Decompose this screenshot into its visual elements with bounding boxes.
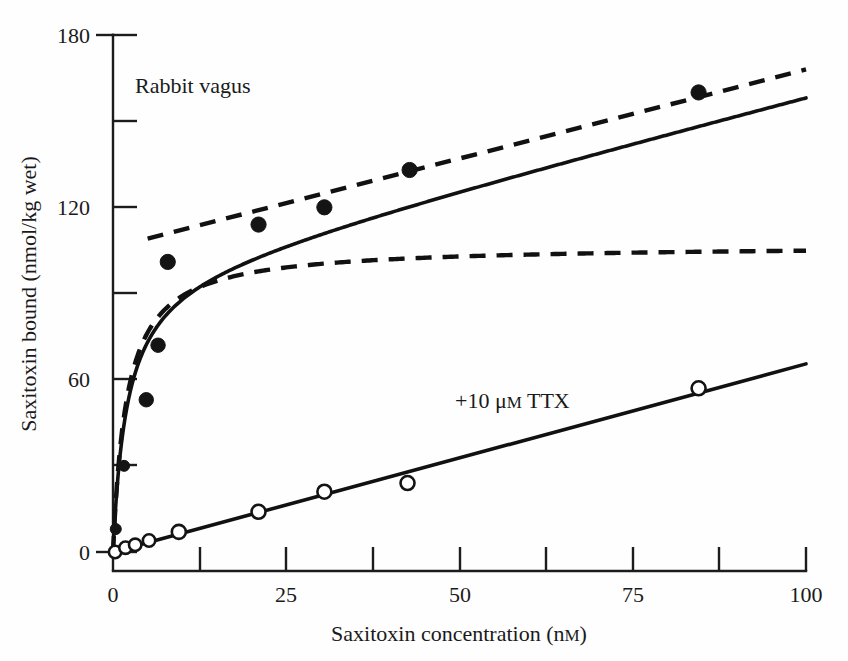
data-point-filled bbox=[691, 85, 706, 100]
data-point-open bbox=[129, 539, 141, 551]
svg-text:Saxitoxin concentration (nM): Saxitoxin concentration (nM) bbox=[331, 621, 587, 646]
preparation-label: Rabbit vagus bbox=[135, 73, 251, 98]
data-point-open bbox=[401, 476, 415, 490]
series-total-binding-points bbox=[110, 85, 706, 535]
saxitoxin-binding-chart: 180 120 60 0 0 25 50 75 100 Saxitoxin bo… bbox=[0, 0, 848, 661]
y-tick-label-60: 60 bbox=[68, 367, 90, 392]
x-axis-title-tail: ) bbox=[580, 621, 587, 646]
data-point-filled bbox=[110, 524, 121, 535]
data-point-open bbox=[317, 485, 331, 499]
x-axis-title-main: Saxitoxin concentration (n bbox=[331, 621, 564, 646]
svg-text:+10 μM TTX: +10 μM TTX bbox=[455, 388, 570, 413]
data-point-filled bbox=[139, 393, 153, 407]
ttx-label-tail: TTX bbox=[522, 388, 570, 413]
data-point-filled bbox=[160, 254, 175, 269]
data-point-filled bbox=[151, 338, 165, 352]
x-tick-labels-group: 0 25 50 75 100 bbox=[108, 582, 823, 607]
x-axis-title: Saxitoxin concentration (nM) bbox=[331, 621, 587, 646]
data-point-open bbox=[692, 381, 706, 395]
data-point-filled bbox=[119, 460, 130, 471]
chart-figure: 180 120 60 0 0 25 50 75 100 Saxitoxin bo… bbox=[0, 0, 848, 661]
fitted-curves-group bbox=[113, 69, 806, 552]
data-point-filled bbox=[251, 217, 266, 232]
ttx-annotation: +10 μM TTX bbox=[455, 388, 570, 413]
axes-group bbox=[113, 35, 806, 571]
ttx-label-main: +10 bbox=[455, 388, 495, 413]
y-tick-label-120: 120 bbox=[57, 195, 90, 220]
y-tick-label-0: 0 bbox=[79, 540, 90, 565]
data-point-filled bbox=[317, 200, 332, 215]
data-point-filled bbox=[402, 162, 417, 177]
total-binding-curve bbox=[113, 98, 806, 552]
series-ttx-nonspecific-points bbox=[109, 381, 706, 558]
y-tick-labels-group: 180 120 60 0 bbox=[57, 23, 90, 565]
y-axis-title: Saxitoxin bound (nmol/kg wet) bbox=[16, 156, 41, 432]
data-point-open bbox=[252, 505, 266, 519]
x-tick-label-50: 50 bbox=[449, 582, 471, 607]
x-tick-label-0: 0 bbox=[108, 582, 119, 607]
x-ticks-group bbox=[113, 547, 806, 571]
data-point-open bbox=[143, 534, 155, 546]
x-tick-label-25: 25 bbox=[275, 582, 297, 607]
x-axis-title-smallcap-m: M bbox=[564, 626, 579, 645]
data-point-open bbox=[172, 525, 186, 539]
x-tick-label-75: 75 bbox=[622, 582, 644, 607]
y-tick-label-180: 180 bbox=[57, 23, 90, 48]
x-tick-label-100: 100 bbox=[790, 582, 823, 607]
ttx-label-smallcap-m: M bbox=[507, 393, 522, 412]
ttx-label-mu: μ bbox=[495, 388, 507, 413]
